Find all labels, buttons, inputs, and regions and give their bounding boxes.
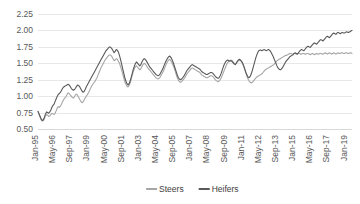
x-axis-tick-label: Jan-03 — [133, 135, 143, 161]
gridlines — [38, 15, 352, 130]
legend-label-heifers: Heifers — [212, 184, 239, 194]
series-line-heifers — [38, 30, 352, 120]
x-axis-tick-label: May-00 — [99, 135, 109, 164]
chart-canvas: 2.252.001.751.501.251.000.750.50 Jan-95M… — [0, 0, 360, 204]
y-axis-tick-label: 1.75 — [16, 42, 33, 52]
chart-legend: SteersHeifers — [146, 184, 239, 194]
y-axis-tick-label: 1.00 — [16, 91, 33, 101]
x-axis-tick-label: Sep-17 — [321, 135, 331, 163]
y-axis-tick-label: 0.75 — [16, 108, 33, 118]
x-axis-tick-label: Sep-13 — [270, 135, 280, 163]
x-axis-tick-label: Jan-19 — [339, 135, 349, 161]
y-axis-tick-label: 2.25 — [16, 9, 33, 19]
x-axis-tick-label: Jan-07 — [184, 135, 194, 161]
x-axis-tick-label: May-04 — [150, 135, 160, 164]
legend-label-steers: Steers — [159, 184, 184, 194]
x-axis-tick-label: Sep-09 — [219, 135, 229, 163]
x-axis-tick-label: Sep-01 — [116, 135, 126, 163]
line-chart: 2.252.001.751.501.251.000.750.50 Jan-95M… — [0, 0, 360, 204]
y-axis-tick-label: 2.00 — [16, 25, 33, 35]
x-axis-tick-label: May-12 — [253, 135, 263, 164]
x-axis-tick-label: Sep-97 — [64, 135, 74, 163]
x-axis-tick-label: May-96 — [47, 135, 57, 164]
x-axis-tick-label: Jan-15 — [287, 135, 297, 161]
x-axis-tick-label: May-16 — [304, 135, 314, 164]
x-axis-tick-label: May-08 — [201, 135, 211, 164]
y-axis-tick-label: 0.50 — [16, 124, 33, 134]
x-axis-tick-label: Jan-99 — [81, 135, 91, 161]
y-axis-tick-label: 1.25 — [16, 75, 33, 85]
x-axis-tick-labels: Jan-95May-96Sep-97Jan-99May-00Sep-01Jan-… — [30, 135, 349, 164]
x-axis-tick-label: Sep-05 — [167, 135, 177, 163]
y-axis-tick-label: 1.50 — [16, 58, 33, 68]
y-axis-tick-labels: 2.252.001.751.501.251.000.750.50 — [16, 9, 33, 134]
x-axis-tick-label: Jan-95 — [30, 135, 40, 161]
data-series — [38, 30, 352, 121]
x-axis-tick-label: Jan-11 — [236, 135, 246, 161]
